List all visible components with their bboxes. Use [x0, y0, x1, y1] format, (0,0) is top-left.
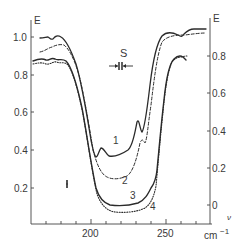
slit-label: S: [120, 47, 127, 59]
y-right-tick-0.6: 0.6: [212, 88, 226, 99]
x-symbol-nu: ν: [227, 213, 231, 222]
curve-4-label: 4: [150, 201, 156, 212]
x-tick-250: 250: [157, 228, 174, 239]
x-tick-200: 200: [82, 228, 99, 239]
curve-1-label: 1: [113, 135, 119, 146]
y-right-tick-0.2: 0.2: [212, 163, 226, 174]
y-right-tick-0.4: 0.4: [212, 126, 226, 137]
y-right-tick-0.8: 0.8: [212, 51, 226, 62]
right-axis-title: E: [213, 13, 220, 24]
slit-width-marker: S: [109, 47, 133, 70]
x-unit: cm: [204, 230, 217, 241]
absorption-spectrum-chart: E E 1.0 0.8 0.6 0.4 0.2 0.8 0.6 0.4 0.2 …: [0, 0, 240, 248]
y-right-tick-0: 0: [212, 200, 218, 211]
error-bar: [66, 180, 68, 188]
curve-3: [33, 56, 186, 206]
left-axis-title: E: [34, 15, 41, 26]
x-unit-exponent: −1: [220, 227, 230, 236]
curve-4: [33, 56, 187, 212]
y-left-tick-1.0: 1.0: [13, 32, 27, 43]
y-left-tick-0.4: 0.4: [14, 145, 28, 156]
curve-2-label: 2: [122, 175, 128, 186]
y-left-tick-0.8: 0.8: [14, 70, 28, 81]
curve-3-label: 3: [130, 190, 136, 201]
y-left-tick-0.6: 0.6: [14, 107, 28, 118]
y-left-tick-0.2: 0.2: [14, 183, 28, 194]
